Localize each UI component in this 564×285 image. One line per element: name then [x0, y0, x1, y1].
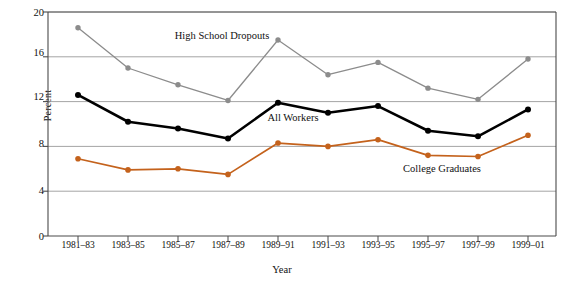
data-point: [175, 166, 181, 172]
series-line: [78, 28, 528, 101]
data-point: [175, 82, 180, 87]
data-point: [175, 125, 181, 131]
data-point: [475, 154, 481, 160]
data-point: [475, 133, 481, 139]
data-point: [325, 144, 331, 150]
data-point: [525, 56, 530, 61]
data-point: [75, 156, 81, 162]
series-label-all-workers: All Workers: [267, 112, 318, 123]
data-point: [525, 106, 531, 112]
data-point: [125, 167, 131, 173]
data-point: [375, 103, 381, 109]
x-tick-label-8: 1997–99: [461, 240, 494, 250]
data-point: [325, 110, 331, 116]
data-point: [375, 60, 380, 65]
series-label-high-school-dropouts: High School Dropouts: [175, 30, 270, 41]
data-point: [375, 137, 381, 143]
data-point: [225, 172, 231, 178]
x-tick-label-4: 1989–91: [261, 240, 294, 250]
data-point: [425, 85, 430, 90]
x-tick-label-0: 1981–83: [61, 240, 94, 250]
data-point: [125, 65, 130, 70]
axis-lines: [43, 12, 556, 236]
data-point: [325, 72, 330, 77]
data-point: [275, 100, 281, 106]
data-point: [275, 140, 281, 146]
x-tick-label-3: 1987–89: [211, 240, 244, 250]
data-point: [475, 97, 480, 102]
x-tick-label-1: 1983–85: [111, 240, 144, 250]
data-point: [125, 119, 131, 125]
data-point: [75, 92, 81, 98]
series-high-school-dropouts: [75, 25, 530, 103]
data-point: [425, 128, 431, 134]
x-tick-label-5: 1991–93: [311, 240, 344, 250]
x-tick-label-9: 1999–01: [511, 240, 544, 250]
data-point: [275, 37, 280, 42]
chart-container: Percent Year 20 16 12 8 4 0 1981–83 1983…: [0, 0, 564, 285]
series-layer: [75, 25, 531, 177]
series-label-college-graduates: College Graduates: [403, 163, 481, 174]
x-tick-label-2: 1985–87: [161, 240, 194, 250]
data-point: [75, 25, 80, 30]
data-point: [225, 136, 231, 142]
data-point: [225, 98, 230, 103]
x-tick-label-7: 1995–97: [411, 240, 444, 250]
x-tick-label-6: 1993–95: [361, 240, 394, 250]
data-point: [425, 153, 431, 159]
data-point: [525, 132, 531, 138]
